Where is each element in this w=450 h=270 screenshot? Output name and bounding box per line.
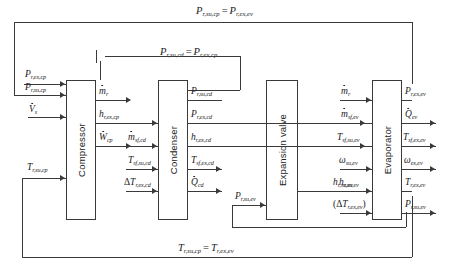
- arrow-compressor-input-p-ex: [60, 81, 65, 87]
- label-evaporator-input-omega-su-ev: ωsu,ev: [339, 156, 358, 166]
- label-evaporator-input-m-r: mr: [341, 87, 350, 97]
- arrow-condenser-input-tsf: [152, 166, 157, 172]
- loop-mid-horizontal: [100, 56, 240, 57]
- block-compressor-label: Compressor: [76, 123, 87, 177]
- arrow-condenser-input-dt: [152, 188, 157, 194]
- block-expansion-valve: Expansion valve: [266, 80, 298, 220]
- loop-bottom-left-vertical: [22, 178, 23, 257]
- label-condenser-output-q-cd: Qcd: [191, 178, 203, 188]
- arrow-expansion-input-psu: [260, 202, 265, 208]
- label-compressor-output-h-ex-cp: hr,ex,cp: [99, 110, 119, 120]
- label-evaporator-input-m-sf-ev: msf,ev: [341, 110, 358, 120]
- line-condenser-output-psu: [188, 100, 222, 101]
- line-evaporator-input-msf: [340, 123, 372, 124]
- line-evaporator-output-tex: [402, 191, 412, 192]
- line-evaporator-output-pex: [402, 100, 412, 101]
- block-condenser-label: Condenser: [168, 126, 179, 174]
- block-condenser: Condenser: [158, 80, 188, 220]
- diagram-canvas: Pr,su,cp=Pr,ex,ev Pr,su,cd=Pr,ex,cp Tr,s…: [0, 0, 450, 270]
- loop-bottom-horizontal: [22, 257, 412, 258]
- line-compressor-output-h: [96, 123, 158, 124]
- arrow-compressor-output-mdot: [126, 97, 131, 103]
- label-condenser-input-delta-t-r-ex-cd: ΔTr,ex,cd: [124, 178, 151, 188]
- arrow-expansion-output-h: [366, 188, 371, 194]
- block-expansion-valve-label: Expansion valve: [277, 114, 288, 186]
- label-evaporator-output-omega-ex-ev: ωex,ev: [404, 156, 423, 166]
- line-evaporator-input-tsf: [340, 146, 372, 147]
- block-compressor: Compressor: [66, 80, 96, 220]
- label-compressor-input-t-su-cp: Tr,su,cp: [27, 163, 48, 173]
- arrow-evaporator-output-qdot: [430, 120, 435, 126]
- label-condenser-output-p-su-cd: Pr,su,cd: [191, 87, 212, 97]
- arrow-evaporator-output-tsf: [430, 143, 435, 149]
- label-evaporator-output-q-ev: Qev: [405, 110, 417, 120]
- label-compressor-input-v-s: Vs: [29, 105, 37, 115]
- label-evaporator-output-t-sf-ex-ev: Tsf,ex,ev: [403, 133, 425, 143]
- loop-mid-right-vertical: [240, 56, 241, 90]
- arrow-compressor-output-h: [152, 120, 157, 126]
- line-compressor-output-mdot: [96, 100, 130, 101]
- label-evaporator-input-h-r-su-ev: hr,su,ev: [339, 178, 359, 188]
- equation-bottom: Tr,su,cp=Tr,ex,ev: [178, 243, 234, 254]
- arrow-condenser-output-tsf: [216, 166, 221, 172]
- label-compressor-input-p-su-cp: Pr,su,cp: [25, 83, 46, 93]
- label-compressor-output-m-r: mr: [99, 87, 108, 97]
- loop-top-horizontal: [14, 22, 412, 23]
- label-evaporator-input-t-sf-su-ev: Tsf,su,ev: [337, 133, 359, 143]
- label-compressor-input-p-ex-cp: Pr,ex,cp: [25, 70, 46, 80]
- loop-top-into-compressor: [14, 95, 66, 96]
- loop-top-left-vertical: [14, 22, 15, 95]
- line-hop: [96, 50, 106, 63]
- line-compressor-output-wdot: [96, 146, 130, 147]
- arrow-condenser-output-qdot: [216, 188, 221, 194]
- loop-top-right-vertical: [412, 22, 413, 84]
- arrow-condenser-input-msf: [152, 143, 157, 149]
- label-condenser-input-t-sf-su-cd: Tsf,su,cd: [128, 156, 151, 166]
- label-evaporator-output-t-r-ex-ev: Tr,ex,ev: [405, 178, 425, 188]
- label-condenser-output-t-sf-ex-cd: Tsf,ex,cd: [191, 156, 214, 166]
- label-condenser-input-m-sf-cd: msf,cd: [128, 133, 146, 143]
- arrow-loop-top-into-compressor: [60, 92, 65, 98]
- label-evaporator-output-p-ex-ev: Pr,ex,ev: [405, 87, 426, 97]
- label-evaporator-input-delta-t-r-ex-ev: (ΔTr,ex,ev): [333, 200, 366, 210]
- arrow-evaporator-input-dt: [366, 210, 371, 216]
- arrow-evaporator-output-psu: [430, 210, 435, 216]
- label-expansion-input-p-r-su-ev: Pr,su,ev: [235, 192, 256, 202]
- line-psu-ev-feedback-horizontal: [232, 227, 406, 228]
- label-condenser-output-p-ex-cd: Pr,ex,cd: [191, 110, 212, 120]
- line-expansion-output-h: [298, 191, 372, 192]
- line-psu-ev-feedback-vertical: [406, 212, 407, 227]
- label-evaporator-output-p-r-su-ev: Pr,su,ev: [405, 200, 426, 210]
- equation-top: Pr,su,cp=Pr,ex,ev: [196, 6, 253, 17]
- label-condenser-output-h-ex-cd: hr,ex,cd: [191, 133, 211, 143]
- label-compressor-output-w-cp: Wcp: [99, 133, 112, 143]
- block-evaporator: Evaporator: [372, 80, 402, 220]
- arrow-evaporator-output-omega: [430, 166, 435, 172]
- arrow-evaporator-input-mr: [366, 97, 371, 103]
- arrow-evaporator-input-omega: [366, 166, 371, 172]
- block-evaporator-label: Evaporator: [382, 126, 393, 174]
- arrow-loop-bottom-into-compressor: [60, 175, 65, 181]
- arrow-compressor-input-vdot: [60, 114, 65, 120]
- line-expansion-input-psu-vertical: [232, 205, 233, 227]
